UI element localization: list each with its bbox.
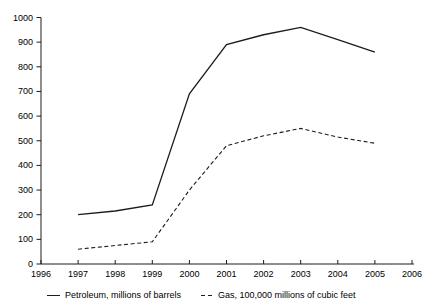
y-tick-label: 0: [28, 259, 33, 269]
x-tick-label: 1997: [68, 269, 88, 279]
petroleum-series-line: [78, 27, 375, 214]
y-tick-label: 200: [18, 210, 33, 220]
chart-figure: 0100200300400500600700800900100019961997…: [0, 0, 434, 308]
x-tick-label: 1999: [142, 269, 162, 279]
y-tick-label: 1000: [13, 13, 33, 23]
solid-line-swatch: [47, 295, 60, 297]
y-tick-label: 400: [18, 160, 33, 170]
x-tick-label: 1996: [31, 269, 51, 279]
y-tick-label: 300: [18, 185, 33, 195]
gas-series-line: [78, 128, 375, 249]
dashed-line-swatch: [201, 295, 213, 297]
y-tick-label: 100: [18, 234, 33, 244]
legend-item-gas: Gas, 100,000 millions of cubic feet: [201, 290, 356, 301]
y-tick-label: 500: [18, 136, 33, 146]
chart-legend: Petroleum, millions of barrels Gas, 100,…: [0, 290, 434, 304]
y-tick-label: 700: [18, 86, 33, 96]
x-tick-label: 2003: [291, 269, 311, 279]
y-tick-label: 600: [18, 111, 33, 121]
x-tick-label: 2006: [402, 269, 422, 279]
y-tick-label: 900: [18, 37, 33, 47]
x-tick-label: 2005: [365, 269, 385, 279]
x-tick-label: 1998: [105, 269, 125, 279]
line-chart: 0100200300400500600700800900100019961997…: [0, 0, 434, 308]
legend-label-gas: Gas, 100,000 millions of cubic feet: [218, 290, 356, 301]
x-tick-label: 2004: [328, 269, 348, 279]
x-tick-label: 2000: [179, 269, 199, 279]
y-tick-label: 800: [18, 62, 33, 72]
legend-item-petroleum: Petroleum, millions of barrels: [47, 290, 181, 301]
x-tick-label: 2002: [254, 269, 274, 279]
legend-label-petroleum: Petroleum, millions of barrels: [65, 290, 181, 301]
x-tick-label: 2001: [216, 269, 236, 279]
